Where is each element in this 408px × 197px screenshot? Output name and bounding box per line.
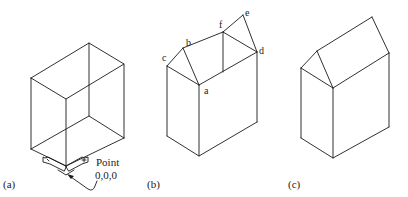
line-f-e <box>223 15 243 32</box>
vertex-label-b: b <box>186 37 191 48</box>
gable-b-a <box>183 48 199 85</box>
vertex-label-e: e <box>245 7 250 18</box>
wall-bottom <box>167 122 257 156</box>
caption-c: (c) <box>288 178 301 191</box>
figure-canvas: Point 0,0,0 (a) c b f e d a (b) <box>0 0 408 197</box>
figure-c-house <box>301 17 389 158</box>
ucs-x-glyph <box>47 159 49 161</box>
caption-b: (b) <box>147 178 160 191</box>
line-e-d <box>243 15 257 52</box>
vertex-label-f: f <box>219 19 223 30</box>
house-eave-right <box>333 53 389 88</box>
house-ridge <box>317 17 372 51</box>
house-back-roof-edge <box>372 17 389 53</box>
point-coordinates: 0,0,0 <box>95 169 118 181</box>
point-label: Point <box>96 156 119 168</box>
house-bottom <box>301 127 389 158</box>
vertex-label-c: c <box>162 52 167 63</box>
eave-a-d <box>199 52 257 85</box>
house-gable-left <box>301 51 317 68</box>
caption-a: (a) <box>3 178 16 191</box>
figure-a-wireframe-box <box>31 43 124 166</box>
origin-leader <box>67 174 97 190</box>
vertex-label-a: a <box>204 85 209 96</box>
ucs-base <box>58 170 74 175</box>
line-f-d <box>223 32 257 52</box>
house-gable-right <box>317 51 333 88</box>
box-bottom-back-edges <box>31 116 124 149</box>
vertex-label-d: d <box>259 45 264 56</box>
ucs-x-arrow <box>43 157 66 171</box>
ucs-y-arrow <box>66 157 88 171</box>
ucs-icon <box>43 157 88 175</box>
eave-c-a <box>167 66 199 85</box>
leader-line <box>71 177 97 190</box>
gable-c-b <box>167 48 183 66</box>
box-top-face <box>31 43 124 99</box>
figure-b-roof-construction <box>167 15 257 156</box>
